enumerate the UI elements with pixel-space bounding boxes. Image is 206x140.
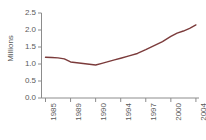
x-tick-label: 2004: [200, 103, 206, 133]
axes: [42, 13, 200, 98]
line-chart: Millions 0.00.51.01.52.02.5 198519891990…: [0, 0, 206, 140]
x-tick-label: 1990: [100, 103, 108, 133]
data-series-line: [46, 25, 196, 65]
x-tick-label: 1985: [50, 103, 58, 133]
x-tick-label: 1994: [125, 103, 133, 133]
x-tick-label: 1989: [75, 103, 83, 133]
x-tick-label: 1997: [150, 103, 158, 133]
axis-ticks: [38, 13, 196, 102]
x-tick-label: 2000: [175, 103, 183, 133]
